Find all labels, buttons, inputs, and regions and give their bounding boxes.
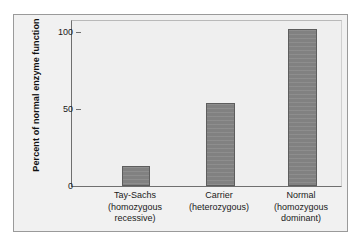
figure-frame: Percent of normal enzyme function 0 50 1…	[13, 14, 348, 232]
x-axis-labels: Tay-Sachs (homozygous recessive) Carrier…	[71, 190, 342, 232]
bar-tay-sachs	[122, 166, 150, 186]
x-axis-label-line: dominant)	[249, 213, 353, 225]
plot-area: 0 50 100	[71, 20, 342, 187]
bar-normal	[288, 29, 317, 186]
x-axis-label-normal: Normal (homozygous dominant)	[249, 190, 353, 225]
x-axis-label-line: Normal	[249, 190, 353, 202]
y-axis-title: Percent of normal enzyme function	[31, 10, 41, 180]
bars-layer	[72, 21, 341, 186]
bar-carrier	[206, 103, 235, 186]
x-axis-label-line: (homozygous	[249, 202, 353, 214]
x-axis-label-line: recessive)	[83, 213, 187, 225]
